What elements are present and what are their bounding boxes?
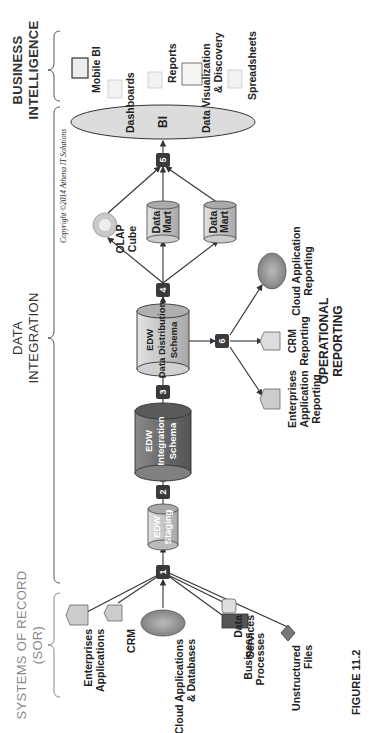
svg-text:6: 6 — [217, 338, 227, 343]
reporting-crm: CRM Reporting — [260, 316, 310, 366]
svg-text:Mobile BI: Mobile BI — [90, 46, 102, 93]
svg-text:Staging: Staging — [162, 509, 173, 544]
bi-subtitle: Intelligence — [26, 21, 41, 120]
bi-title: Business — [10, 36, 25, 105]
svg-text:Spreadsheets: Spreadsheets — [246, 31, 258, 100]
svg-text:& Discovery: & Discovery — [212, 32, 224, 93]
svg-text:Unstructured: Unstructured — [290, 645, 302, 711]
svg-text:Application: Application — [298, 370, 310, 427]
sor-subtitle: (SOR) — [30, 626, 45, 664]
svg-text:Reporting: Reporting — [298, 316, 310, 366]
chart-icon — [182, 63, 202, 85]
server-icon — [260, 332, 280, 350]
source-unstructured-files: Unstructured Files — [281, 625, 314, 711]
step-4: 4 — [156, 283, 170, 297]
store-data-mart-2: Data Mart — [204, 201, 236, 243]
svg-text:Schema: Schema — [167, 422, 178, 459]
bi-hub: BI — [71, 105, 255, 139]
section-data-integration: Data Integration — [10, 107, 60, 583]
output-spreadsheets: Spreadsheets — [228, 31, 258, 100]
svg-text:Enterprises: Enterprises — [82, 629, 94, 687]
step-2: 2 — [156, 485, 170, 499]
svg-text:CRM: CRM — [125, 629, 137, 653]
svg-text:Data: Data — [232, 615, 244, 638]
step-1: 1 — [156, 565, 170, 579]
dashboard-icon — [108, 80, 122, 98]
reporting-enterprise-app: Enterprises Application Reporting — [260, 370, 322, 428]
sor-title: Systems of Record — [14, 571, 29, 720]
svg-text:Data Distribution: Data Distribution — [156, 302, 167, 379]
section-business-intelligence: Business Intelligence — [10, 21, 60, 120]
cloud-icon — [141, 610, 185, 636]
svg-text:3: 3 — [158, 389, 168, 394]
svg-text:EDW: EDW — [143, 430, 154, 452]
di-title: Data — [10, 321, 25, 355]
svg-text:Integration: Integration — [155, 416, 166, 465]
operational-reporting-subtitle: Reporting — [331, 305, 345, 376]
file-stack-icon — [281, 625, 295, 641]
svg-text:& Databases: & Databases — [185, 639, 197, 702]
svg-text:Services: Services — [244, 615, 256, 658]
svg-text:Schema: Schema — [168, 321, 179, 358]
bi-brace — [48, 31, 60, 101]
output-reports: Reports — [148, 43, 178, 88]
svg-text:Reports: Reports — [166, 43, 178, 83]
store-olap-cube: OLAP Cube — [93, 213, 138, 254]
source-crm: CRM — [104, 605, 137, 653]
sor-brace — [48, 593, 60, 697]
svg-text:Applications: Applications — [94, 629, 106, 692]
store-edw-staging: EDW Staging — [148, 504, 178, 550]
svg-text:4: 4 — [158, 287, 168, 292]
output-mobile-bi: Mobile BI — [72, 46, 102, 93]
figure-caption: FIGURE 11.2 — [350, 650, 362, 715]
step-3: 3 — [156, 385, 170, 399]
reporting-cloud-app: Cloud Application Reporting — [258, 226, 314, 315]
diagram-stage: Systems of Record (SOR) Data Integration… — [0, 0, 369, 733]
svg-text:Cloud Application: Cloud Application — [290, 226, 302, 315]
svg-text:Files: Files — [302, 645, 314, 669]
svg-text:Cloud Applications: Cloud Applications — [173, 639, 185, 733]
store-edw-integration: EDW Integration Schema — [135, 403, 191, 481]
database-icon — [222, 599, 236, 613]
svg-text:Cube: Cube — [126, 226, 138, 252]
section-sor: Systems of Record (SOR) — [14, 571, 60, 720]
svg-text:CRM: CRM — [286, 329, 298, 353]
server-icon — [104, 605, 122, 621]
source-data-services: Data Services — [222, 599, 256, 658]
svg-text:Mart: Mart — [218, 210, 230, 233]
server-icon — [260, 389, 280, 409]
store-data-mart-1: Data Mart — [147, 201, 179, 243]
operational-reporting-title: Operational — [317, 298, 331, 384]
svg-text:1: 1 — [158, 569, 168, 574]
connectors — [85, 141, 290, 628]
report-icon — [148, 72, 162, 88]
store-edw-distribution: EDW Data Distribution Schema — [137, 302, 189, 379]
step-6: 6 — [215, 334, 229, 348]
svg-text:OLAP: OLAP — [114, 224, 126, 253]
step-5: 5 — [156, 153, 170, 167]
svg-text:Enterprises: Enterprises — [286, 370, 298, 428]
svg-text:Data Visualization: Data Visualization — [200, 43, 212, 133]
sor-sources: Enterprises Applications CRM Cloud Appli… — [66, 599, 314, 733]
tablet-icon — [72, 58, 88, 78]
svg-text:EDW: EDW — [144, 329, 155, 351]
svg-text:Dashboards: Dashboards — [124, 72, 136, 133]
svg-text:BI: BI — [156, 116, 170, 128]
svg-text:Reporting: Reporting — [302, 246, 314, 296]
architecture-diagram: Systems of Record (SOR) Data Integration… — [0, 0, 369, 733]
server-icon — [66, 605, 88, 625]
svg-text:5: 5 — [158, 157, 168, 162]
source-cloud-applications: Cloud Applications & Databases — [141, 610, 197, 733]
copyright-text: Copyright ©2014 Athena IT Solutions — [59, 129, 68, 243]
svg-text:EDW: EDW — [151, 516, 162, 538]
di-subtitle: Integration — [26, 292, 41, 383]
operational-reporting: Enterprises Application Reporting CRM Re… — [258, 226, 345, 428]
source-enterprise-applications: Enterprises Applications — [66, 605, 106, 692]
svg-text:Mart: Mart — [161, 210, 173, 233]
svg-text:2: 2 — [158, 489, 168, 494]
spreadsheet-icon — [228, 70, 242, 88]
cloud-icon — [258, 253, 286, 289]
